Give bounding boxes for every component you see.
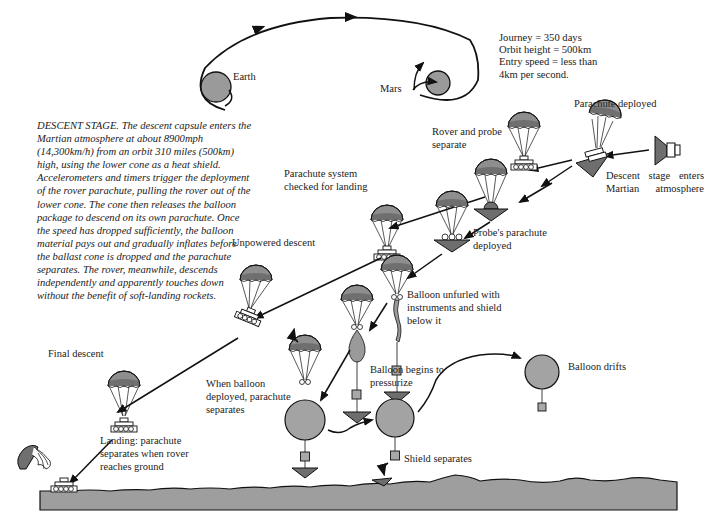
label-parachute-system-checked: Parachute system checked for landing [284,167,370,193]
label-final-descent: Final descent [48,347,104,360]
label-landing: Landing: parachute separates when rover … [100,434,196,473]
label-descent-stage-enters: Descent stage enters Martian atmosphere [606,169,704,195]
fact-entry-speed: Entry speed = less than [499,56,597,68]
fact-orbit-height: Orbit height = 500km [499,44,597,56]
probe-parachute-icon [434,191,470,252]
balloon-drifts-icon [525,355,559,411]
label-unpowered-descent: Unpowered descent [232,236,315,249]
label-rover-probe-separate: Rover and probe separate [432,125,518,151]
mars-planet [426,71,450,95]
mars-label: Mars [380,82,402,95]
label-probe-parachute-deployed: Probe's parachute deployed [473,226,551,252]
trajectory-path [201,18,479,110]
balloon-pressurize-icon [341,285,373,423]
earth-planet [201,72,231,102]
label-balloon-drifts: Balloon drifts [568,360,626,373]
descent-stage-caption: DESCENT STAGE. The descent capsule enter… [37,119,252,302]
balloon-shield-separates-icon [376,399,414,460]
parachute-checked-icon [371,205,403,260]
probe-separate-icon [474,159,508,221]
fact-journey: Journey = 350 days [499,32,597,44]
mars-ground [40,475,677,510]
collapsed-parachute-icon [18,445,51,469]
label-shield-separates: Shield separates [404,452,472,465]
label-balloon-unfurled: Balloon unfurled with instruments and sh… [407,288,505,327]
mission-facts: Journey = 350 days Orbit height = 500km … [499,32,597,81]
fact-entry-speed-cont: 4km per second. [499,69,597,81]
descent-capsule-icon [655,136,680,165]
label-balloon-pressurize: Balloon begins to pressurize [370,363,450,389]
label-balloon-deployed: When balloon deployed, parachute separat… [206,377,302,416]
earth-label: Earth [233,70,256,83]
label-parachute-deployed: Parachute deployed [574,97,657,110]
